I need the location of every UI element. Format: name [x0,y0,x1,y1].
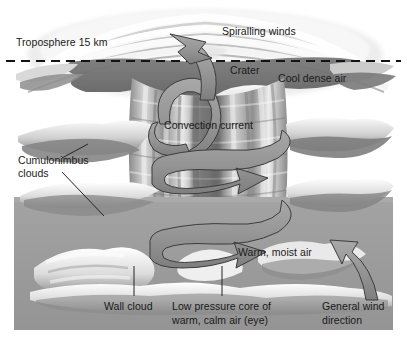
label-cumulonimbus-line1: Cumulonimbus [18,154,89,167]
label-convection-current: Convection current [164,119,253,132]
label-low-pressure-line2: warm, calm air (eye) [172,314,268,327]
label-cool-dense-air: Cool dense air [278,72,346,85]
label-general-wind-line1: General wind [322,300,384,313]
hurricane-diagram: Troposphere 15 km Spiralling winds Crate… [0,0,407,344]
diagram-artwork [0,0,407,344]
label-general-wind-line2: direction [322,314,362,327]
label-low-pressure-line1: Low pressure core of [172,300,271,313]
label-warm-moist-air: Warm, moist air [238,246,312,259]
label-troposphere: Troposphere 15 km [16,36,108,49]
label-cumulonimbus-line2: clouds [18,167,49,180]
label-spiralling-winds: Spiralling winds [222,25,296,38]
label-crater: Crater [230,64,259,77]
label-wall-cloud: Wall cloud [104,300,153,313]
